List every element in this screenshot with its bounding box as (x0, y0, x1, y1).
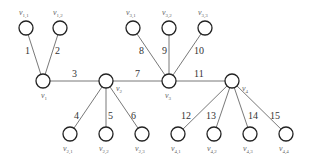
node-label: v2,3 (135, 144, 145, 155)
edge-label: 9 (162, 45, 167, 56)
edge-v4-v41 (178, 81, 232, 134)
node-v12 (53, 21, 67, 35)
tree-diagram: 123711891045612131415 v1v2v3v4v1,1v1,2v3… (0, 0, 309, 161)
edge-label: 11 (194, 68, 204, 79)
node-label: v4,4 (279, 144, 289, 155)
node-v23 (135, 127, 149, 141)
node-v32 (162, 21, 176, 35)
edge-label: 8 (139, 45, 144, 56)
edge-label: 13 (206, 110, 216, 121)
node-label: v1 (41, 91, 48, 101)
node-label: v3 (165, 91, 172, 101)
node-v1 (36, 74, 50, 88)
edge-v4-v42 (214, 81, 232, 134)
node-label: v4,3 (243, 144, 253, 155)
node-label: v4,1 (171, 144, 181, 155)
edges-layer (26, 28, 286, 134)
node-label: v2,2 (99, 144, 109, 155)
edge-label: 15 (270, 110, 280, 121)
edge-label: 3 (72, 68, 77, 79)
edge-label: 7 (135, 68, 140, 79)
edge-v4-v44 (232, 81, 286, 134)
node-label: v1,2 (53, 8, 63, 19)
node-v42 (207, 127, 221, 141)
node-label: v3,2 (162, 8, 172, 19)
node-label: v3,1 (126, 8, 136, 19)
edge-label: 10 (194, 45, 204, 56)
node-label: v4,2 (207, 144, 217, 155)
node-v4 (225, 74, 239, 88)
node-v22 (99, 127, 113, 141)
edge-label: 2 (55, 45, 60, 56)
node-v43 (243, 127, 257, 141)
node-label: v2,1 (63, 144, 73, 155)
node-v41 (171, 127, 185, 141)
edge-label: 5 (108, 110, 113, 121)
node-label: v4 (242, 84, 249, 94)
node-v2 (99, 74, 113, 88)
edge-label: 14 (248, 110, 258, 121)
node-v11 (19, 21, 33, 35)
node-label: v1,1 (19, 8, 29, 19)
edge-v2-v23 (106, 81, 142, 134)
edge-label: 1 (25, 45, 30, 56)
node-label: v3,3 (198, 8, 208, 19)
node-v31 (126, 21, 140, 35)
node-v21 (63, 127, 77, 141)
node-v33 (198, 21, 212, 35)
edge-label: 4 (74, 110, 79, 121)
node-label: v2 (116, 84, 123, 94)
edge-v2-v21 (70, 81, 106, 134)
node-v44 (279, 127, 293, 141)
edge-label: 6 (131, 110, 136, 121)
edge-label: 12 (181, 110, 191, 121)
node-v3 (162, 74, 176, 88)
